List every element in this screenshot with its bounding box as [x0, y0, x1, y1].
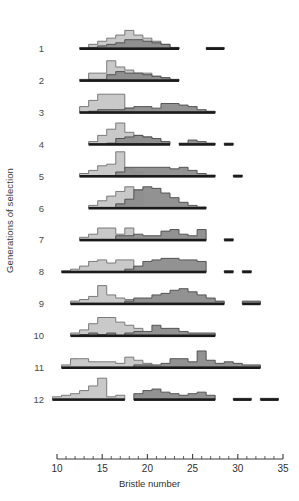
row-label-12: 12: [33, 394, 44, 405]
row-label-5: 5: [39, 171, 44, 182]
high-line-histogram: [134, 351, 261, 368]
row-label-8: 8: [39, 266, 44, 277]
x-tick-label: 20: [142, 463, 154, 474]
row-baseline: [80, 79, 179, 82]
histogram-row-1: 1: [39, 30, 225, 54]
x-tick-label: 10: [51, 463, 63, 474]
row-baseline: [260, 398, 278, 401]
row-baseline: [62, 366, 261, 369]
x-axis-label: Bristle number: [0, 478, 299, 489]
row-baseline: [52, 398, 124, 401]
high-line-histogram: [125, 258, 206, 272]
plot-canvas: 123456789101112101520253035: [0, 0, 299, 501]
histogram-row-6: 6: [39, 187, 206, 214]
high-line-histogram: [125, 289, 224, 305]
row-label-4: 4: [39, 139, 44, 150]
row-baseline: [134, 398, 215, 401]
histogram-row-12: 12: [33, 378, 278, 405]
row-baseline: [224, 239, 233, 242]
row-baseline: [80, 239, 207, 242]
row-baseline: [179, 143, 215, 146]
row-baseline: [62, 271, 207, 274]
row-baseline: [206, 47, 224, 50]
histogram-row-8: 8: [39, 258, 252, 277]
x-tick-label: 25: [187, 463, 199, 474]
row-baseline: [80, 47, 179, 50]
row-baseline: [71, 303, 225, 306]
row-baseline: [80, 175, 216, 178]
row-baseline: [242, 271, 251, 274]
row-label-6: 6: [39, 203, 44, 214]
x-axis: 101520253035: [51, 454, 289, 474]
row-label-7: 7: [39, 234, 44, 245]
x-tick-label: 15: [97, 463, 109, 474]
row-label-2: 2: [39, 75, 44, 86]
row-label-10: 10: [33, 330, 44, 341]
row-baseline: [233, 398, 251, 401]
low-line-histogram: [62, 260, 134, 272]
row-baseline: [80, 111, 216, 114]
row-baseline: [224, 271, 233, 274]
histogram-row-10: 10: [33, 318, 215, 342]
histogram-row-5: 5: [39, 152, 243, 182]
histogram-row-3: 3: [39, 94, 215, 118]
histogram-row-4: 4: [39, 123, 234, 150]
high-line-histogram: [134, 389, 215, 400]
row-baseline: [89, 207, 207, 210]
histogram-row-11: 11: [34, 351, 260, 373]
x-tick-label: 35: [277, 463, 289, 474]
row-baseline: [89, 143, 170, 146]
histogram-row-9: 9: [39, 286, 261, 310]
row-baseline: [233, 175, 242, 178]
row-baseline: [71, 335, 216, 338]
row-label-3: 3: [39, 107, 44, 118]
row-label-9: 9: [39, 298, 44, 309]
row-label-11: 11: [34, 362, 44, 373]
row-label-1: 1: [39, 43, 44, 54]
x-tick-label: 30: [232, 463, 244, 474]
low-line-histogram: [52, 378, 124, 400]
row-baseline: [242, 303, 260, 306]
histogram-row-7: 7: [39, 228, 234, 245]
row-baseline: [224, 143, 233, 146]
histogram-row-2: 2: [39, 61, 179, 86]
low-line-histogram: [71, 286, 134, 305]
histogram-figure: 123456789101112101520253035 Generations …: [0, 0, 299, 501]
